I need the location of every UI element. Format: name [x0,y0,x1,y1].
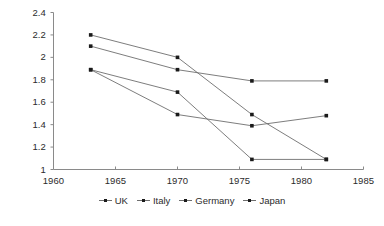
legend-item-italy[interactable]: Italy [137,196,170,206]
legend-marker-icon [137,197,150,204]
y-tick-label: 1.6 [8,97,46,107]
plot-area [0,0,384,226]
data-point-japan-1976 [250,124,254,128]
x-tick-label: 1965 [94,176,138,186]
legend-marker-icon [99,197,112,204]
legend-label: UK [115,196,128,206]
x-tick-label: 1960 [32,176,76,186]
legend-label: Italy [153,196,170,206]
data-point-germany-1970 [176,90,180,94]
data-point-uk-1982 [325,79,329,83]
data-point-uk-1970 [176,68,180,72]
data-point-germany-1976 [250,158,254,162]
series-line-italy [91,35,327,159]
x-tick-label: 1975 [218,176,262,186]
series-line-germany [91,70,327,160]
y-tick-label: 1.8 [8,75,46,85]
x-tick-label: 1980 [280,176,324,186]
series-line-japan [91,70,327,126]
series-line-uk [91,46,327,81]
legend-item-japan[interactable]: Japan [243,196,285,206]
data-point-germany-1982 [325,158,329,162]
line-chart: 11.21.41.61.822.22.4 1960196519701975198… [0,0,384,226]
data-point-italy-1976 [250,113,254,117]
x-tick-label: 1970 [156,176,200,186]
x-tick-label: 1985 [342,176,384,186]
data-point-japan-1982 [325,114,329,118]
y-tick-label: 1 [8,165,46,175]
data-point-japan-1970 [176,113,180,117]
legend-label: Japan [259,196,285,206]
data-point-uk-1976 [250,79,254,83]
y-tick-label: 2 [8,52,46,62]
y-tick-label: 2.2 [8,30,46,40]
data-point-italy-1970 [176,56,180,60]
y-tick-label: 1.2 [8,142,46,152]
legend-item-germany[interactable]: Germany [179,196,234,206]
data-point-japan-1963 [89,68,93,72]
y-tick-label: 1.4 [8,120,46,130]
legend-marker-icon [243,197,256,204]
chart-legend: UKItalyGermanyJapan [0,196,384,206]
legend-label: Germany [195,196,234,206]
legend-marker-icon [179,197,192,204]
data-point-uk-1963 [89,44,93,48]
y-tick-label: 2.4 [8,8,46,18]
legend-item-uk[interactable]: UK [99,196,128,206]
data-point-italy-1963 [89,33,93,37]
